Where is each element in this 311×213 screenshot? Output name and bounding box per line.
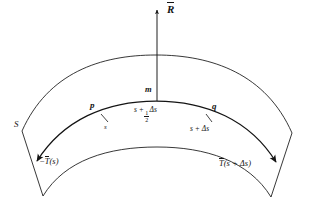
tick-p-icon <box>101 114 108 122</box>
label-mass-point: m <box>145 85 152 94</box>
label-arclength-s: s <box>104 124 107 131</box>
string-element-diagram: R m S p s q s + Δs s +12Δs −T(s) T(s + Δ… <box>0 0 311 213</box>
R-overbar-text: R <box>167 4 174 15</box>
T-overbar-left: T <box>45 157 50 166</box>
label-tension-right: T(s + Δs) <box>219 159 251 168</box>
label-surface-S: S <box>14 120 19 129</box>
label-point-p: p <box>90 101 95 110</box>
tension-right-argument: (s + Δs) <box>224 158 251 168</box>
label-arclength-s-plus-delta-s: s + Δs <box>190 125 209 133</box>
label-point-q: q <box>212 102 217 111</box>
fraction-denominator: 2 <box>144 116 148 123</box>
tick-q-icon <box>206 114 212 122</box>
midpoint-prefix: s + <box>134 105 144 114</box>
T-overbar-right: T <box>219 159 224 168</box>
label-tension-left: −T(s) <box>40 157 59 166</box>
tension-left-argument: (s) <box>50 156 59 166</box>
midpoint-suffix: Δs <box>149 105 156 114</box>
inner-arc <box>43 147 271 197</box>
label-arclength-midpoint: s +12Δs <box>134 106 157 123</box>
right-radial-edge <box>271 133 292 197</box>
label-radius-vector: R <box>167 4 174 15</box>
